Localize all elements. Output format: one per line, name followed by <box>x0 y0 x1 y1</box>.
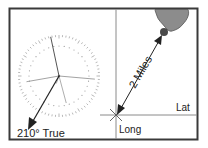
compass-inner-dot <box>48 104 49 105</box>
compass-inner-dot <box>32 60 33 61</box>
compass-inner-dot <box>88 81 89 82</box>
compass-inner-dot <box>29 70 30 71</box>
compass-inner-dot <box>88 75 89 76</box>
bearing-label: 210° True <box>17 127 65 139</box>
compass-inner-dot <box>30 65 31 66</box>
lat-label: Lat <box>176 102 190 113</box>
compass-inner-dot <box>78 98 79 99</box>
compass-inner-dot <box>32 90 33 91</box>
compass-inner-dot <box>43 49 44 50</box>
compass-inner-dot <box>28 75 29 76</box>
compass-inner-dot <box>81 56 82 57</box>
compass-inner-dot <box>69 47 70 48</box>
position-fix-diagram: 2 Miles Lat Long 210° True <box>0 0 208 148</box>
compass-inner-dot <box>39 52 40 53</box>
compass-inner-dot <box>73 49 74 50</box>
compass-inner-dot <box>48 47 49 48</box>
compass-inner-dot <box>39 98 40 99</box>
compass-inner-dot <box>87 86 88 87</box>
compass-inner-dot <box>64 46 65 47</box>
long-label: Long <box>119 124 141 135</box>
compass-inner-dot <box>53 105 54 106</box>
compass-inner-dot <box>84 90 85 91</box>
landmark-point <box>160 28 168 36</box>
compass-inner-dot <box>35 56 36 57</box>
compass-tick <box>48 114 49 116</box>
compass-inner-dot <box>88 70 89 71</box>
compass-inner-dot <box>81 95 82 96</box>
compass-inner-dot <box>84 60 85 61</box>
compass-inner-dot <box>53 46 54 47</box>
compass-inner-dot <box>73 101 74 102</box>
compass-inner-dot <box>69 104 70 105</box>
compass-inner-dot <box>35 95 36 96</box>
compass-inner-dot <box>87 65 88 66</box>
compass-inner-dot <box>30 86 31 87</box>
compass-tick <box>48 36 49 38</box>
compass-inner-dot <box>58 105 59 106</box>
compass-inner-dot <box>64 105 65 106</box>
compass-inner-dot <box>58 45 59 46</box>
compass-inner-dot <box>78 52 79 53</box>
